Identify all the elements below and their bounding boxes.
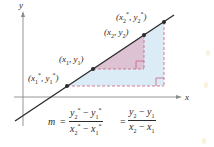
point-x1star-y1star (65, 84, 69, 88)
point-x2star-y2star (162, 20, 166, 24)
label-x1-y1: (x1, y1) (59, 55, 84, 66)
page-mark (206, 50, 210, 56)
formula-m: m (48, 116, 55, 127)
formula-fraction: y2 − y1 x2 − x1 (128, 107, 156, 134)
label-x2-y2: (x2, y2) (104, 28, 129, 39)
y-axis-arrow-icon (21, 11, 25, 17)
x-axis-label: x (185, 93, 189, 102)
y-axis-label: y (19, 1, 23, 10)
slope-diagram: y x (x2*, y2*) (x2, y2) (x1, y1) (x1*, y… (0, 0, 214, 147)
page-mark (202, 138, 206, 144)
formula-equals-1: = (60, 116, 66, 127)
label-x2star-y2star: (x2*, y2*) (116, 11, 147, 24)
point-x1-y1 (91, 67, 95, 71)
x-axis-arrow-icon (176, 95, 182, 99)
point-x2-y2 (142, 33, 146, 37)
formula-equals-2: = (120, 116, 126, 127)
page-mark (204, 82, 208, 88)
formula-fraction-star: y2* − y1* x2* − x1* (69, 107, 103, 137)
label-x1star-y1star: (x1*, y1*) (28, 72, 59, 85)
